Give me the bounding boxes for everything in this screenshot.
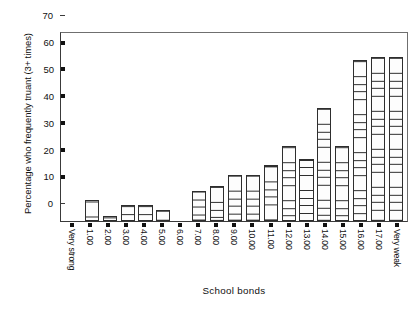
x-axis-tick-label: Very weak [392, 229, 402, 267]
x-axis-tick-mark [359, 223, 363, 227]
x-axis-tick-mark [341, 223, 345, 227]
bar-very-weak [389, 57, 403, 221]
x-axis-tick-label: 3.00 [121, 229, 131, 245]
x-axis-tick-label: 9.00 [229, 229, 239, 245]
x-axis-tick-mark [142, 223, 146, 227]
bar-8-00 [210, 186, 224, 221]
x-axis-label-slot: 16.00 [352, 229, 370, 289]
y-axis-tick-label: 0 [48, 198, 60, 209]
bar-slot [119, 33, 137, 221]
bar-14-00 [317, 108, 331, 221]
bar-slot [101, 33, 119, 221]
x-axis-label-slot: 9.00 [225, 229, 243, 289]
x-axis-label-slot: 11.00 [262, 229, 280, 289]
bar-slot [137, 33, 155, 221]
bar-slot [244, 33, 262, 221]
bar-10-00 [246, 175, 260, 221]
x-axis-label-slot: 7.00 [189, 229, 207, 289]
bar-12-00 [282, 146, 296, 221]
y-axis-tick-mark [61, 41, 65, 45]
x-axis-tick-labels: Very strong1.002.003.004.005.006.007.008… [60, 229, 408, 289]
bar-slot [262, 33, 280, 221]
y-axis-tick-mark [61, 148, 65, 152]
bar-slot [351, 33, 369, 221]
bar-4-00 [138, 205, 152, 221]
y-axis-tick-20: 20 [43, 140, 61, 158]
x-axis-tick-label: 6.00 [175, 229, 185, 245]
bar-2-00 [103, 216, 117, 221]
x-axis-tick-label: 17.00 [374, 229, 384, 250]
x-axis-label-slot: 3.00 [117, 229, 135, 289]
bar-slot [280, 33, 298, 221]
bar-slot [315, 33, 333, 221]
x-axis-tick-label: 13.00 [302, 229, 312, 250]
x-axis-tick-label: 5.00 [157, 229, 167, 245]
x-axis-tick-mark [232, 223, 236, 227]
y-axis-tick-0: 0 [48, 194, 61, 212]
x-axis-tick-label: 4.00 [139, 229, 149, 245]
y-axis-tick-label: 70 [42, 10, 60, 21]
x-axis-label-slot: Very strong [63, 229, 81, 289]
y-axis-tick-70: 70 [42, 6, 61, 24]
x-axis-label-slot: 17.00 [370, 229, 388, 289]
x-axis-tick-mark [196, 223, 200, 227]
bar-slot [190, 33, 208, 221]
x-axis-tick-mark [250, 223, 254, 227]
x-axis-label-slot: 1.00 [81, 229, 99, 289]
x-axis-tick-label: 10.00 [247, 229, 257, 250]
y-axis-tick-label: 40 [43, 91, 61, 102]
bar-7-00 [192, 191, 206, 221]
x-axis-tick-label: 14.00 [320, 229, 330, 250]
bar-slot [154, 33, 172, 221]
x-axis-tick-mark [88, 223, 92, 227]
y-axis-tick-label: 60 [43, 37, 61, 48]
x-axis-tick-mark [214, 223, 218, 227]
bar-15-00 [335, 146, 349, 221]
x-axis-tick-mark [124, 223, 128, 227]
y-axis-tick-label: 50 [43, 64, 61, 75]
x-axis-tick-mark [377, 223, 381, 227]
x-axis-tick-label: 11.00 [266, 229, 276, 249]
bar-3-00 [121, 205, 135, 221]
bar-slot [226, 33, 244, 221]
y-axis-tick-10: 10 [43, 167, 61, 185]
x-axis-label-slot: 14.00 [316, 229, 334, 289]
y-axis-tick-label: 30 [43, 118, 61, 129]
bar-series [62, 33, 407, 221]
bar-slot [172, 33, 190, 221]
plot-area: 010203040506070 [60, 32, 408, 222]
bar-1-00 [85, 200, 99, 221]
x-axis-tick-mark [70, 223, 74, 227]
bar-16-00 [353, 60, 367, 221]
x-axis-tick-mark [323, 223, 327, 227]
x-axis-label-slot: 4.00 [135, 229, 153, 289]
y-axis-tick-mark [61, 94, 65, 98]
x-axis-tick-label: 1.00 [85, 229, 95, 245]
y-axis-tick-30: 30 [43, 113, 61, 131]
y-axis-tick-mark [61, 67, 65, 71]
y-axis-tick-mark [60, 203, 65, 204]
x-axis-tick-label: 16.00 [356, 229, 366, 250]
x-axis-tick-mark [178, 223, 182, 227]
y-axis-tick-mark [61, 175, 65, 179]
bar-13-00 [299, 159, 313, 221]
x-axis-tick-label: 2.00 [103, 229, 113, 245]
bar-slot [387, 33, 405, 221]
x-axis-tick-label: 7.00 [193, 229, 203, 245]
bar-slot [208, 33, 226, 221]
x-axis-tick-label: 15.00 [338, 229, 348, 250]
bar-slot [298, 33, 316, 221]
y-axis-tick-label: 20 [43, 145, 61, 156]
bar-9-00 [228, 175, 242, 221]
bar-17-00 [371, 57, 385, 221]
bar-slot [83, 33, 101, 221]
bar-slot [65, 33, 83, 221]
y-axis-tick-40: 40 [43, 87, 61, 105]
bar-11-00 [264, 165, 278, 221]
y-axis-tick-50: 50 [43, 60, 61, 78]
bar-5-00 [156, 210, 170, 221]
x-axis-label-slot: 10.00 [243, 229, 261, 289]
x-axis-tick-label: Very strong [67, 229, 77, 270]
x-axis-label-slot: 6.00 [171, 229, 189, 289]
y-axis-tick-mark [61, 121, 65, 125]
